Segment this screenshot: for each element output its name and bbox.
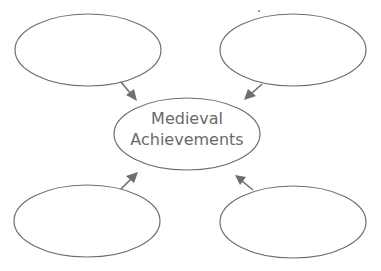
center-label-line1: Medieval bbox=[113, 108, 261, 129]
node-bottom-left[interactable] bbox=[14, 185, 160, 257]
stray-mark bbox=[258, 10, 260, 12]
center-label: Medieval Achievements bbox=[113, 108, 261, 150]
arrow-bottom-left bbox=[121, 172, 138, 189]
node-top-right[interactable] bbox=[220, 14, 366, 86]
arrow-top-left bbox=[121, 82, 137, 101]
arrow-top-right bbox=[244, 84, 262, 100]
arrow-bottom-right bbox=[235, 175, 253, 190]
node-bottom-right[interactable] bbox=[220, 186, 366, 258]
center-label-line2: Achievements bbox=[113, 129, 261, 150]
node-top-left[interactable] bbox=[15, 14, 161, 86]
